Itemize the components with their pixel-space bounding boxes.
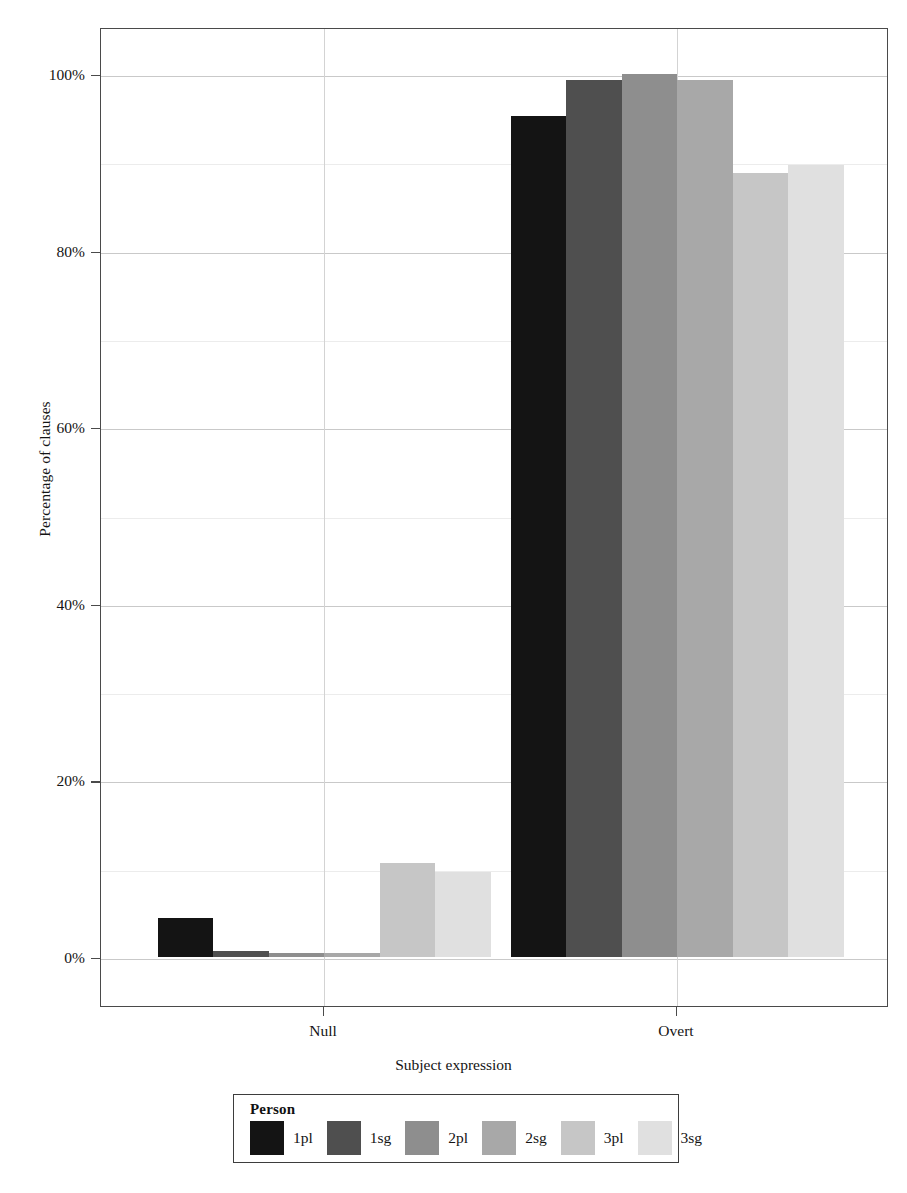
y-axis-tick-label: 40% xyxy=(5,596,85,614)
y-axis-tick xyxy=(91,428,100,429)
y-axis-tick-label: 20% xyxy=(5,772,85,790)
bar-overt-1sg xyxy=(566,80,622,957)
legend-label-1pl: 1pl xyxy=(293,1129,313,1147)
y-axis-tick xyxy=(91,781,100,782)
legend-item-2sg[interactable]: 2sg xyxy=(482,1121,547,1155)
x-axis-tick-label: Overt xyxy=(596,1022,756,1040)
y-axis-tick xyxy=(91,75,100,76)
legend-box: Person 1pl1sg2pl2sg3pl3sg xyxy=(233,1094,679,1163)
legend-items: 1pl1sg2pl2sg3pl3sg xyxy=(250,1121,678,1155)
plot-area xyxy=(101,29,887,1006)
legend-swatch-1sg xyxy=(327,1121,361,1155)
legend-label-3sg: 3sg xyxy=(681,1129,703,1147)
legend-item-1sg[interactable]: 1sg xyxy=(327,1121,392,1155)
legend-label-2sg: 2sg xyxy=(525,1129,547,1147)
x-axis-tick-label: Null xyxy=(243,1022,403,1040)
legend-title: Person xyxy=(250,1101,678,1118)
legend-label-1sg: 1sg xyxy=(370,1129,392,1147)
legend-swatch-2pl xyxy=(405,1121,439,1155)
y-axis-tick xyxy=(91,958,100,959)
bar-null-1pl xyxy=(158,918,214,957)
y-axis-tick-labels: 0%20%40%60%80%100% xyxy=(0,0,85,1193)
bar-null-2pl xyxy=(269,953,325,957)
x-axis-tick xyxy=(676,1007,677,1016)
legend-item-2pl[interactable]: 2pl xyxy=(405,1121,468,1155)
y-axis-tick xyxy=(91,605,100,606)
bar-overt-2pl xyxy=(622,74,678,957)
bar-overt-1pl xyxy=(511,116,567,957)
gridline-major xyxy=(101,76,887,77)
x-axis-title: Subject expression xyxy=(0,1056,907,1074)
legend-swatch-3sg xyxy=(638,1121,672,1155)
legend-swatch-2sg xyxy=(482,1121,516,1155)
y-axis-tick-label: 60% xyxy=(5,419,85,437)
legend-swatch-1pl xyxy=(250,1121,284,1155)
category-gridline xyxy=(324,29,325,1006)
legend-item-3sg[interactable]: 3sg xyxy=(638,1121,703,1155)
legend-label-3pl: 3pl xyxy=(604,1129,624,1147)
bar-null-1sg xyxy=(213,951,269,957)
y-axis-tick xyxy=(91,252,100,253)
bar-null-3sg xyxy=(435,872,491,957)
bar-overt-2sg xyxy=(677,80,733,957)
bar-overt-3sg xyxy=(788,165,844,957)
bar-null-3pl xyxy=(380,863,436,957)
gridline-minor xyxy=(101,164,887,165)
legend-item-1pl[interactable]: 1pl xyxy=(250,1121,313,1155)
legend-item-3pl[interactable]: 3pl xyxy=(561,1121,624,1155)
bar-overt-3pl xyxy=(733,173,789,957)
x-axis-tick xyxy=(323,1007,324,1016)
bar-null-2sg xyxy=(324,953,380,957)
y-axis-tick-label: 0% xyxy=(5,949,85,967)
y-axis-tick-label: 100% xyxy=(5,66,85,84)
legend-swatch-3pl xyxy=(561,1121,595,1155)
plot-panel xyxy=(100,28,888,1007)
gridline-major xyxy=(101,959,887,960)
legend-label-2pl: 2pl xyxy=(448,1129,468,1147)
bar-chart-figure: Percentage of clauses 0%20%40%60%80%100%… xyxy=(0,0,907,1193)
y-axis-tick-label: 80% xyxy=(5,243,85,261)
